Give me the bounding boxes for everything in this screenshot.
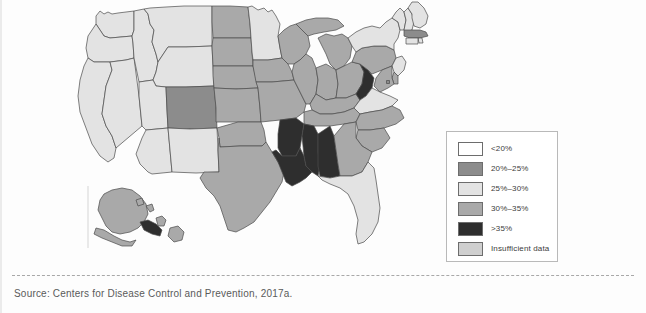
state-KS[interactable]: [214, 88, 261, 122]
state-MN[interactable]: [248, 6, 282, 60]
state-UT[interactable]: [139, 80, 168, 130]
legend-label-insufficient: Insufficient data: [491, 245, 549, 253]
state-AK[interactable]: [98, 188, 148, 234]
legend-swatch-gt35: [458, 222, 483, 236]
state-DC[interactable]: [387, 81, 390, 84]
state-ND[interactable]: [212, 6, 251, 38]
legend-item-lt20[interactable]: <20%: [458, 141, 512, 156]
legend-swatch-20to25: [458, 162, 483, 176]
state-CT[interactable]: [406, 38, 418, 44]
map-legend: <20% 20%–25% 25%–30% 30%–35% >35% Insuff…: [446, 131, 558, 262]
legend-label-lt20: <20%: [491, 145, 512, 153]
figure-divider: [12, 275, 634, 276]
state-HI[interactable]: [156, 216, 166, 226]
legend-swatch-30to35: [458, 202, 483, 216]
legend-label-25to30: 25%–30%: [491, 185, 529, 193]
legend-item-insufficient[interactable]: Insufficient data: [458, 241, 549, 256]
obesity-prevalence-map-figure: <20% 20%–25% 25%–30% 30%–35% >35% Insuff…: [0, 0, 646, 313]
legend-swatch-lt20: [458, 142, 483, 156]
state-NM[interactable]: [168, 128, 219, 173]
legend-item-30to35[interactable]: 30%–35%: [458, 201, 529, 216]
legend-swatch-insufficient: [458, 242, 483, 256]
state-HI2[interactable]: [168, 226, 184, 242]
legend-label-gt35: >35%: [491, 225, 512, 233]
legend-label-30to35: 30%–35%: [491, 205, 529, 213]
legend-label-20to25: 20%–25%: [491, 165, 529, 173]
state-RI[interactable]: [418, 38, 423, 43]
source-note: Source: Centers for Disease Control and …: [14, 288, 292, 299]
state-SD[interactable]: [212, 38, 253, 66]
state-CO[interactable]: [166, 86, 217, 129]
us-choropleth-map: [0, 0, 440, 275]
state-IN[interactable]: [316, 64, 338, 100]
legend-item-25to30[interactable]: 25%–30%: [458, 181, 529, 196]
state-MA[interactable]: [404, 30, 428, 38]
legend-swatch-25to30: [458, 182, 483, 196]
state-OK[interactable]: [217, 122, 266, 147]
state-AZ[interactable]: [136, 128, 172, 174]
legend-item-gt35[interactable]: >35%: [458, 221, 512, 236]
legend-item-20to25[interactable]: 20%–25%: [458, 161, 529, 176]
state-NE[interactable]: [213, 66, 258, 89]
